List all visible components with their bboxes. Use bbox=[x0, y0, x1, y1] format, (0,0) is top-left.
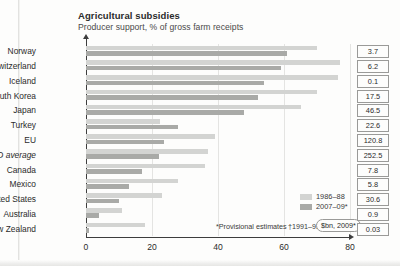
value-box: 0.03 bbox=[357, 223, 389, 236]
category-label: Switzerland bbox=[0, 62, 36, 70]
bar-old bbox=[86, 75, 338, 80]
bar-old bbox=[86, 164, 205, 169]
bar-new bbox=[86, 95, 258, 100]
value-box: 6.2 bbox=[357, 60, 389, 73]
x-tick-label: 60 bbox=[279, 242, 289, 252]
value-box: 120.8 bbox=[357, 134, 389, 147]
chart-row: Japan bbox=[86, 103, 354, 118]
category-label: OECD average bbox=[0, 151, 36, 159]
category-label: Australia bbox=[3, 210, 36, 218]
bar-new bbox=[86, 169, 142, 174]
bar-old bbox=[86, 105, 301, 110]
bar-old bbox=[86, 119, 160, 124]
chart-row: Switzerland bbox=[86, 59, 354, 74]
bar-new bbox=[86, 199, 119, 204]
chart-row: South Korea bbox=[86, 88, 354, 103]
value-box: 22.6 bbox=[357, 119, 389, 132]
category-label: Canada bbox=[7, 166, 36, 174]
bar-old bbox=[86, 90, 317, 95]
chart-subtitle: Producer support, % of gross farm receip… bbox=[78, 22, 243, 32]
x-tick-label: 80 bbox=[345, 242, 355, 252]
bar-old bbox=[86, 179, 178, 184]
bar-new bbox=[86, 125, 178, 130]
bar-new bbox=[86, 140, 164, 145]
chart-row: Iceland bbox=[86, 74, 354, 89]
value-box: 7.8 bbox=[357, 164, 389, 177]
bar-new bbox=[86, 110, 244, 115]
bar-new bbox=[86, 228, 89, 233]
category-label: Mexico bbox=[9, 180, 36, 188]
chart-row: Australia bbox=[86, 206, 354, 221]
value-box: 5.8 bbox=[357, 178, 389, 191]
x-tick-label: 40 bbox=[213, 242, 223, 252]
bar-new bbox=[86, 81, 264, 86]
x-axis bbox=[86, 237, 350, 238]
x-tick-label: 0 bbox=[84, 242, 89, 252]
category-label: United States bbox=[0, 195, 36, 203]
bar-old bbox=[86, 208, 122, 213]
category-label: EU bbox=[24, 136, 36, 144]
value-box: 17.5 bbox=[357, 90, 389, 103]
chart-row: New Zealand bbox=[86, 221, 354, 236]
value-box: 0.9 bbox=[357, 208, 389, 221]
chart-page: Agricultural subsidies Producer support,… bbox=[0, 0, 400, 266]
category-label: Iceland bbox=[9, 77, 36, 85]
category-label: Turkey bbox=[11, 121, 36, 129]
x-tick-label: 20 bbox=[147, 242, 157, 252]
chart-row: Norway bbox=[86, 44, 354, 59]
bar-old bbox=[86, 223, 145, 228]
bar-old bbox=[86, 149, 208, 154]
value-box: 0.1 bbox=[357, 75, 389, 88]
chart-row: Canada bbox=[86, 162, 354, 177]
value-box: 3.7 bbox=[357, 45, 389, 58]
chart-row: Turkey bbox=[86, 118, 354, 133]
bar-new bbox=[86, 213, 99, 218]
bar-new bbox=[86, 154, 159, 159]
chart-row: OECD average bbox=[86, 147, 354, 162]
value-box: 46.5 bbox=[357, 104, 389, 117]
bar-old bbox=[86, 134, 215, 139]
bar-old bbox=[86, 60, 340, 65]
y-axis-arrow bbox=[83, 34, 89, 39]
chart-title: Agricultural subsidies bbox=[78, 10, 180, 21]
bar-new bbox=[86, 51, 287, 56]
category-label: South Korea bbox=[0, 92, 36, 100]
category-label: New Zealand bbox=[0, 225, 36, 233]
value-box: 252.5 bbox=[357, 149, 389, 162]
bar-new bbox=[86, 184, 129, 189]
value-box: 30.6 bbox=[357, 193, 389, 206]
chart-row: United States bbox=[86, 192, 354, 207]
chart-row: EU bbox=[86, 133, 354, 148]
page-bottom-edge bbox=[0, 260, 400, 266]
bar-old bbox=[86, 46, 317, 51]
chart-row: Mexico bbox=[86, 177, 354, 192]
bar-old bbox=[86, 193, 162, 198]
category-label: Japan bbox=[13, 106, 36, 114]
bar-new bbox=[86, 66, 281, 71]
category-label: Norway bbox=[8, 47, 36, 55]
